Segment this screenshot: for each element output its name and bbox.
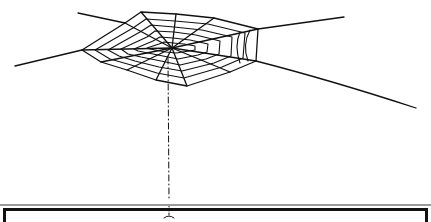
spider-web-drawing <box>0 0 431 222</box>
dangling-thread <box>168 58 169 200</box>
anchor-thread-top-right <box>258 17 344 29</box>
frame-box <box>3 208 428 222</box>
anchor-thread-left <box>15 50 82 66</box>
anchor-thread-right <box>256 61 416 108</box>
anchor-thread-top-left <box>78 13 125 23</box>
